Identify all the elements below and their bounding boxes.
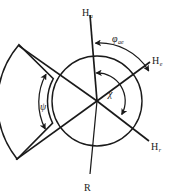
label-h-r: Hr (151, 137, 161, 153)
label-phi-ae-base: φ (112, 33, 118, 44)
figure-canvas: Ha He Hr R φae χ ψ (0, 0, 177, 196)
spoke-group (16, 15, 150, 174)
label-r-base: R (84, 182, 91, 193)
label-h-e-sub: e (159, 61, 162, 67)
label-h-a-sub: a (89, 13, 92, 19)
label-r: R (84, 178, 91, 194)
label-h-a: Ha (82, 3, 93, 19)
diagram-svg (0, 0, 177, 196)
label-h-r-sub: r (158, 147, 161, 153)
label-chi: χ (108, 84, 113, 100)
sector-upper-spoke (18, 45, 97, 101)
label-phi-ae: φae (112, 29, 124, 45)
h-a-spoke (90, 15, 97, 101)
label-phi-ae-sub: ae (118, 39, 124, 45)
label-h-e: He (152, 51, 162, 67)
r-spoke (90, 101, 97, 174)
sector-lower-spoke (16, 101, 97, 160)
label-psi: ψ (40, 97, 47, 113)
